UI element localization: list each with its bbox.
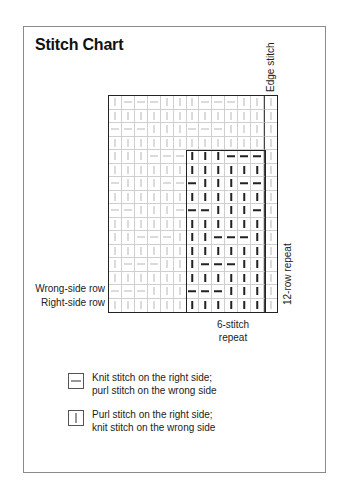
stitch-cell (264, 177, 277, 191)
purl-symbol-icon (153, 125, 154, 133)
purl-symbol-icon (166, 220, 167, 228)
purl-symbol-icon (114, 193, 115, 201)
stitch-cell (225, 299, 238, 313)
right-side-row-label: Right-side row (41, 297, 105, 308)
purl-symbol-icon (244, 139, 245, 147)
purl-symbol-icon (218, 247, 220, 255)
purl-symbol-icon (244, 112, 245, 120)
purl-symbol-icon (192, 233, 194, 241)
knit-symbol-icon (240, 183, 248, 185)
stitch-cell (122, 258, 135, 272)
stitch-cell (264, 150, 277, 164)
stitch-cell (251, 204, 264, 218)
edge-stitch-label: Edge stitch (265, 43, 276, 92)
stitch-cell (161, 258, 174, 272)
stitch-cell (148, 137, 161, 151)
stitch-cell (212, 231, 225, 245)
stitch-repeat-label: 6-stitch repeat (196, 318, 270, 344)
stitch-cell (174, 110, 187, 124)
stitch-cell (109, 245, 122, 259)
stitch-cell (109, 177, 122, 191)
chart-title: Stitch Chart (35, 36, 123, 54)
stitch-cell (225, 150, 238, 164)
stitch-cell (161, 218, 174, 232)
stitch-cell (238, 231, 251, 245)
knit-symbol-icon (124, 291, 132, 292)
stitch-cell (174, 123, 187, 137)
purl-symbol-icon (231, 179, 233, 187)
knit-symbol-icon (111, 183, 119, 184)
knit-symbol-icon (188, 129, 196, 130)
purl-symbol-icon (114, 112, 115, 120)
purl-symbol-icon (256, 247, 258, 255)
stitch-cell (109, 218, 122, 232)
purl-symbol-icon (127, 166, 128, 174)
purl-symbol-icon (218, 206, 220, 214)
purl-symbol-icon (243, 206, 245, 214)
stitch-cell (122, 191, 135, 205)
stitch-cell (174, 96, 187, 110)
stitch-cell (199, 245, 212, 259)
purl-symbol-icon (166, 274, 167, 282)
knit-symbol-icon (111, 210, 119, 211)
purl-symbol-icon (153, 166, 154, 174)
purl-symbol-icon (127, 193, 128, 201)
stitch-cell (251, 123, 264, 137)
stitch-cell (135, 231, 148, 245)
stitch-cell (225, 218, 238, 232)
purl-symbol-icon (140, 179, 141, 187)
stitch-cell (199, 110, 212, 124)
stitch-cell (251, 96, 264, 110)
purl-symbol-icon (231, 274, 233, 282)
legend-knit-text: Knit stitch on the right side; purl stit… (92, 371, 217, 397)
knit-symbol-icon (188, 291, 196, 293)
purl-symbol-icon (243, 193, 245, 201)
stitch-cell (264, 96, 277, 110)
stitch-cell (251, 137, 264, 151)
stitch-cell (212, 150, 225, 164)
purl-symbol-icon (179, 193, 180, 201)
knit-symbol-icon (240, 237, 248, 239)
purl-symbol-icon (205, 166, 207, 174)
purl-symbol-icon (127, 139, 128, 147)
stitch-cell (122, 177, 135, 191)
stitch-cell (135, 191, 148, 205)
purl-symbol-icon (256, 193, 258, 201)
stitch-cell (135, 150, 148, 164)
stitch-cell (122, 123, 135, 137)
stitch-cell (109, 258, 122, 272)
stitch-cell (148, 150, 161, 164)
stitch-cell (187, 96, 200, 110)
legend-knit: Knit stitch on the right side; purl stit… (68, 371, 217, 397)
knit-symbol-icon (227, 237, 235, 239)
stitch-cell (174, 204, 187, 218)
purl-symbol-icon (140, 274, 141, 282)
stitch-cell (225, 164, 238, 178)
stitch-cell (199, 150, 212, 164)
purl-symbol-icon (166, 301, 167, 309)
purl-symbol-icon (166, 125, 167, 133)
purl-symbol-icon (192, 139, 193, 147)
knit-symbol-icon (68, 373, 84, 389)
stitch-cell (199, 299, 212, 313)
knit-symbol-icon (201, 264, 209, 266)
stitch-cell (161, 137, 174, 151)
stitch-cell (174, 191, 187, 205)
stitch-cell (264, 245, 277, 259)
stitch-cell (251, 272, 264, 286)
purl-symbol-icon (271, 247, 272, 255)
stitch-cell (161, 285, 174, 299)
purl-symbol-icon (179, 274, 180, 282)
stitch-cell (199, 137, 212, 151)
stitch-cell (161, 110, 174, 124)
purl-symbol-icon (166, 206, 167, 214)
stitch-cell (212, 191, 225, 205)
stitch-cell (225, 258, 238, 272)
purl-symbol-icon (140, 139, 141, 147)
stitch-cell (109, 204, 122, 218)
legend-purl: Purl stitch on the right side; knit stit… (68, 408, 215, 434)
stitch-cell (161, 123, 174, 137)
purl-symbol-icon (140, 220, 141, 228)
stitch-cell (212, 177, 225, 191)
stitch-cell (187, 177, 200, 191)
